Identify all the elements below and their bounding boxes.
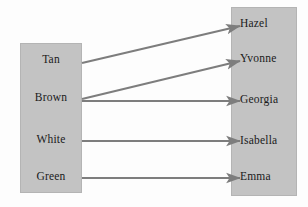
right-node-emma: Emma xyxy=(240,171,271,183)
left-node-tan: Tan xyxy=(20,54,82,66)
left-node-brown: Brown xyxy=(20,92,82,104)
right-node-georgia: Georgia xyxy=(240,94,278,106)
left-node-white: White xyxy=(20,134,82,146)
left-node-green: Green xyxy=(20,171,82,183)
edge-brown-yvonne xyxy=(82,61,240,99)
right-node-isabella: Isabella xyxy=(240,135,277,147)
edge-tan-hazel xyxy=(82,26,240,63)
mapping-diagram: Tan Brown White Green Hazel Yvonne Georg… xyxy=(0,0,308,207)
edges-group xyxy=(82,26,240,178)
right-node-yvonne: Yvonne xyxy=(240,53,276,65)
right-node-hazel: Hazel xyxy=(240,18,268,30)
